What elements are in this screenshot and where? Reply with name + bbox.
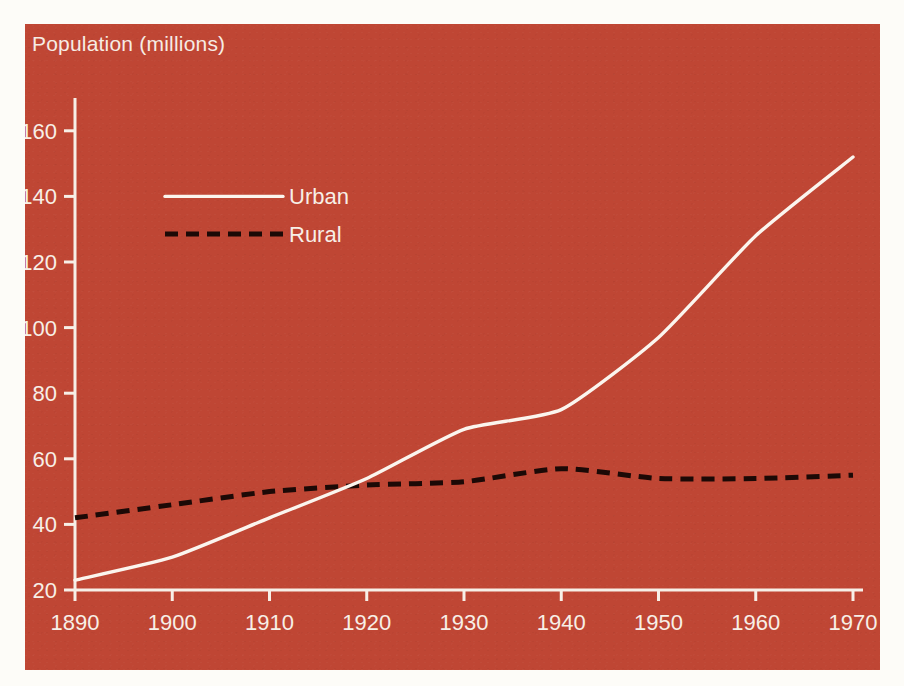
x-axis-ticks xyxy=(75,590,853,601)
x-tick-label: 1890 xyxy=(51,610,100,635)
y-tick-label: 120 xyxy=(25,250,57,275)
x-tick-label: 1900 xyxy=(148,610,197,635)
y-tick-label: 60 xyxy=(33,447,57,472)
line-chart: 20406080100120140160 1890190019101920193… xyxy=(25,24,880,670)
series-line-urban xyxy=(75,157,853,580)
x-axis-tick-labels: 189019001910192019301940195019601970 xyxy=(51,610,878,635)
x-tick-label: 1960 xyxy=(731,610,780,635)
y-tick-label: 140 xyxy=(25,184,57,209)
y-tick-label: 20 xyxy=(33,578,57,603)
x-tick-label: 1950 xyxy=(634,610,683,635)
y-tick-label: 40 xyxy=(33,512,57,537)
legend-label-urban: Urban xyxy=(289,184,349,209)
y-tick-label: 100 xyxy=(25,316,57,341)
x-tick-label: 1920 xyxy=(342,610,391,635)
legend-label-rural: Rural xyxy=(289,222,342,247)
x-tick-label: 1910 xyxy=(245,610,294,635)
y-axis-ticks xyxy=(64,131,75,590)
series-line-rural xyxy=(75,469,853,518)
y-tick-label: 80 xyxy=(33,381,57,406)
page-title: Population (millions) xyxy=(32,32,225,56)
legend: Urban Rural xyxy=(165,184,349,247)
y-axis-tick-labels: 20406080100120140160 xyxy=(25,119,57,603)
x-tick-label: 1940 xyxy=(537,610,586,635)
chart-page: Population (millions) 204060801001201401… xyxy=(0,0,904,686)
y-tick-label: 160 xyxy=(25,119,57,144)
x-tick-label: 1930 xyxy=(440,610,489,635)
chart-panel: Population (millions) 204060801001201401… xyxy=(25,24,880,670)
x-tick-label: 1970 xyxy=(829,610,878,635)
